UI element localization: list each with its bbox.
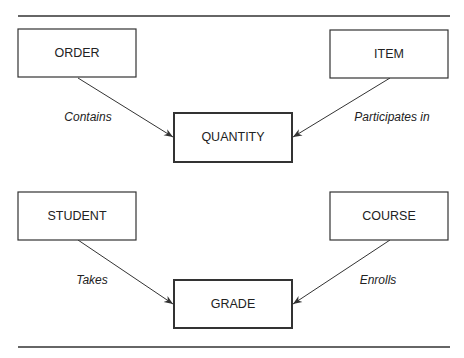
entity-label: STUDENT	[47, 209, 106, 223]
entity-item[interactable]: ITEM	[330, 30, 448, 78]
entity-course[interactable]: COURSE	[330, 192, 448, 240]
group-order-item: ORDER ITEM QUANTITY Contains Participate…	[18, 29, 448, 162]
relationship-label-enrolls: Enrolls	[360, 273, 397, 287]
entity-label: ITEM	[374, 47, 404, 61]
er-diagram: ORDER ITEM QUANTITY Contains Participate…	[0, 0, 464, 358]
edge-order-quantity	[78, 78, 173, 137]
entity-order[interactable]: ORDER	[18, 29, 136, 77]
relationship-label-participates-in: Participates in	[354, 110, 430, 124]
entity-label: COURSE	[362, 209, 415, 223]
edge-course-grade	[293, 240, 390, 304]
entity-label: QUANTITY	[201, 130, 265, 144]
entity-quantity[interactable]: QUANTITY	[174, 113, 292, 162]
entity-label: ORDER	[54, 46, 99, 60]
group-student-course: STUDENT COURSE GRADE Takes Enrolls	[18, 192, 448, 328]
edge-student-grade	[78, 240, 173, 304]
relationship-label-takes: Takes	[76, 273, 108, 287]
edge-item-quantity	[293, 78, 390, 137]
entity-label: GRADE	[211, 297, 255, 311]
entity-student[interactable]: STUDENT	[18, 192, 136, 240]
entity-grade[interactable]: GRADE	[174, 280, 292, 328]
relationship-label-contains: Contains	[64, 110, 111, 124]
